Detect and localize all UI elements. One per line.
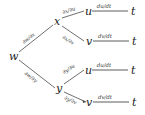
edge-label-dv-dt-1: dv/dt [98,33,113,39]
edge-label-dw-dx: ∂w/∂x [21,31,36,45]
node-t-2: t [132,35,137,48]
node-u-from-y: u [85,64,92,77]
node-t-4: t [132,96,137,109]
edge-label-dy-du: ∂y/∂u [61,63,76,76]
node-t-3: t [131,64,136,77]
node-u-from-x: u [85,5,92,18]
edge-label-du-dt-2: du/dt [97,62,112,68]
node-x: x [54,15,61,28]
node-t-1: t [131,5,136,18]
chain-rule-tree-diagram: w x y u v u v t t t t ∂w/∂x ∂w/∂y ∂x/∂u … [0,0,145,115]
node-y: y [55,82,63,95]
edge-label-dx-dv: ∂x/∂v [61,34,75,46]
node-v-from-x: v [86,35,93,48]
edge-label-dw-dy: ∂w/∂y [23,70,39,84]
node-v-from-y: v [86,96,93,109]
edge-label-dy-dv: ∂y/∂v [63,94,78,106]
edge-label-du-dt-1: du/dt [97,3,112,9]
node-w: w [9,50,19,63]
tree-svg: w x y u v u v t t t t ∂w/∂x ∂w/∂y ∂x/∂u … [0,0,145,115]
edge-label-dv-dt-2: dv/dt [98,94,113,100]
edge-label-dx-du: ∂x/∂u [62,5,77,15]
